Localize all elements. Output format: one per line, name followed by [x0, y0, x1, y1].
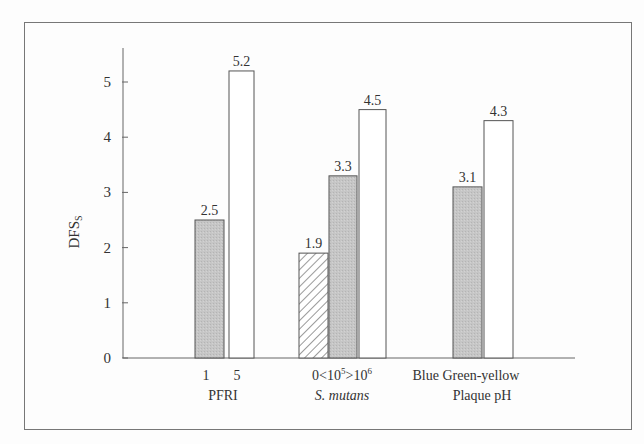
labels: 012345DFSS2.55.21.93.34.53.14.315PFRI0<1… [66, 54, 520, 403]
bar-s-mutans-0 [299, 253, 328, 358]
bar-value-label: 4.3 [490, 104, 508, 119]
y-tick-label: 3 [104, 184, 112, 200]
bar-chart: 012345DFSS2.55.21.93.34.53.14.315PFRI0<1… [0, 0, 644, 444]
bar-value-label: 1.9 [305, 236, 323, 251]
bar-value-label: 5.2 [233, 54, 251, 69]
y-tick-label: 5 [104, 74, 112, 90]
x-tick-label: 5 [234, 368, 241, 383]
y-axis-label: DFSS [66, 215, 84, 248]
y-tick-label: 0 [104, 350, 112, 366]
y-tick-label: 1 [104, 295, 112, 311]
bar-s-mutans-2 [359, 110, 386, 358]
y-tick-label: 4 [104, 129, 112, 145]
bar-value-label: 2.5 [201, 203, 219, 218]
x-tick-label: 1 [203, 368, 210, 383]
bar-s-mutans-1 [329, 176, 357, 358]
bar-pfri-1 [229, 71, 254, 358]
x-tick-label: 0<105>106 [312, 366, 372, 383]
bar-value-label: 3.3 [334, 159, 352, 174]
bars [195, 71, 513, 358]
bar-plaque-ph-0 [453, 187, 482, 358]
y-tick-label: 2 [104, 240, 112, 256]
group-label-plaque-ph: Plaque pH [453, 388, 512, 403]
bar-plaque-ph-1 [484, 121, 513, 358]
bar-value-label: 4.5 [364, 93, 382, 108]
group-label-s-mutans: S. mutans [315, 388, 370, 403]
x-tick-label: Blue Green-yellow [413, 368, 521, 383]
group-label-pfri: PFRI [208, 388, 238, 403]
bar-value-label: 3.1 [459, 170, 477, 185]
bar-pfri-0 [195, 220, 224, 358]
